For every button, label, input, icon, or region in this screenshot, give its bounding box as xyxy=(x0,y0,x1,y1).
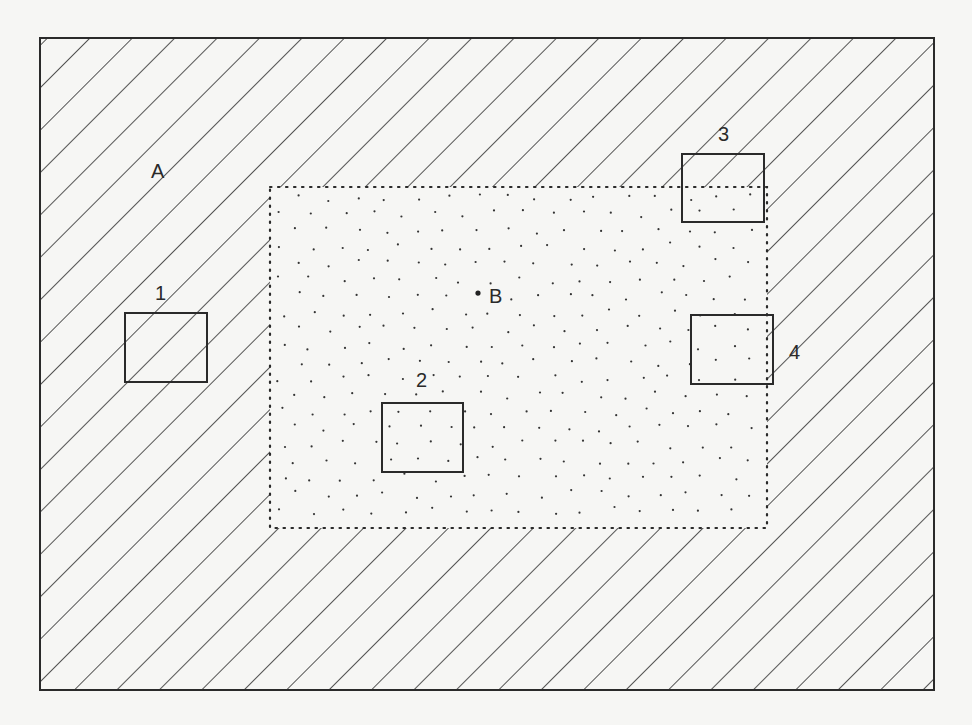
label-box-1: 1 xyxy=(155,283,166,303)
label-region-b: B xyxy=(489,286,502,306)
label-box-4: 4 xyxy=(789,342,800,362)
label-box-3: 3 xyxy=(718,124,729,144)
label-box-2: 2 xyxy=(416,370,427,390)
label-region-a: A xyxy=(151,161,164,181)
point-b-marker xyxy=(475,290,480,295)
region-b xyxy=(270,187,767,528)
region-diagram xyxy=(0,0,972,725)
